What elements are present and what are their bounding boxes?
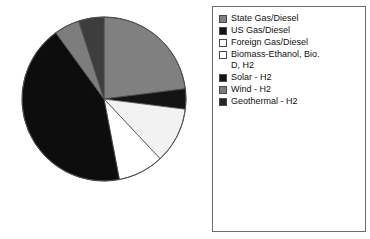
legend-item-biomass-ethanol[interactable]: Biomass-Ethanol, Bio. D, H2 [219,49,361,71]
legend-swatch-icon [219,86,227,94]
legend-item-us-gas-diesel[interactable]: US Gas/Diesel [219,25,361,36]
legend-item-solar-h2[interactable]: Solar - H2 [219,72,361,83]
legend-item-geothermal-h2[interactable]: Geothermal - H2 [219,96,361,107]
chart-legend: State Gas/Diesel US Gas/Diesel Foreign G… [212,6,366,232]
legend-swatch-icon [219,74,227,82]
legend-swatch-icon [219,27,227,35]
legend-item-label: Biomass-Ethanol, Bio. D, H2 [231,49,320,71]
legend-item-label: Geothermal - H2 [231,96,298,107]
legend-item-label: Foreign Gas/Diesel [231,37,308,48]
pie-svg [8,8,204,198]
pie-slice-group [22,17,186,181]
legend-item-foreign-gas-diesel[interactable]: Foreign Gas/Diesel [219,37,361,48]
legend-item-label: Wind - H2 [231,84,271,95]
legend-item-label: US Gas/Diesel [231,25,290,36]
legend-swatch-icon [219,98,227,106]
legend-swatch-icon [219,39,227,47]
legend-item-label: State Gas/Diesel [231,13,299,24]
legend-item-wind-h2[interactable]: Wind - H2 [219,84,361,95]
legend-item-label: Solar - H2 [231,72,272,83]
legend-item-state-gas-diesel[interactable]: State Gas/Diesel [219,13,361,24]
pie-chart-figure: State Gas/Diesel US Gas/Diesel Foreign G… [0,0,370,239]
pie-plot-area [8,8,204,198]
legend-swatch-icon [219,15,227,23]
legend-swatch-icon [219,51,227,59]
pie-slice [104,17,185,99]
